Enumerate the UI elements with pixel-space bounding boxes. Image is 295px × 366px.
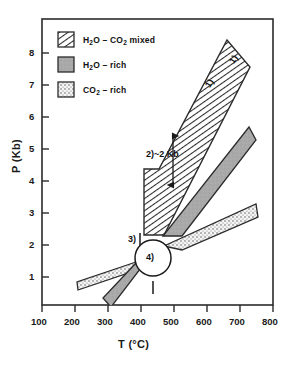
y-tick-label-8: 8 <box>29 47 34 58</box>
x-tick-label-500: 500 <box>163 316 179 327</box>
y-tick-label-6: 6 <box>29 111 34 122</box>
legend <box>58 32 74 97</box>
chart-plot-area <box>0 0 295 366</box>
x-tick-label-800: 800 <box>262 316 278 327</box>
legend-swatch-mixed <box>58 32 74 47</box>
x-axis-ticks <box>42 305 273 312</box>
annotation-3-label: 3) <box>128 234 136 244</box>
annotation-2-label: 2)~2 Kb <box>146 149 179 159</box>
y-tick-label-3: 3 <box>29 207 34 218</box>
legend-swatch-h2o-rich <box>58 57 74 72</box>
legend-swatch-co2-rich <box>58 82 74 97</box>
chart-figure: H2O – CO2 mixed H2O – rich CO2 – rich 8 … <box>0 0 295 366</box>
y-tick-label-5: 5 <box>29 143 34 154</box>
y-tick-label-4: 4 <box>29 175 34 186</box>
x-tick-label-200: 200 <box>64 316 80 327</box>
legend-label-h2o-rich: H2O – rich <box>83 60 126 70</box>
y-axis-title: P (Kb) <box>10 126 22 186</box>
x-tick-label-100: 100 <box>31 316 47 327</box>
annotation-4-label: 4) <box>146 252 154 262</box>
y-tick-label-2: 2 <box>29 239 34 250</box>
x-tick-label-300: 300 <box>97 316 113 327</box>
legend-label-mixed: H2O – CO2 mixed <box>83 35 155 45</box>
y-tick-label-1: 1 <box>29 271 34 282</box>
legend-label-co2-rich: CO2 – rich <box>83 85 126 95</box>
x-axis-title: T (°C) <box>118 338 149 350</box>
x-tick-label-700: 700 <box>229 316 245 327</box>
x-tick-label-600: 600 <box>196 316 212 327</box>
x-tick-label-400: 400 <box>130 316 146 327</box>
y-tick-label-7: 7 <box>29 79 34 90</box>
